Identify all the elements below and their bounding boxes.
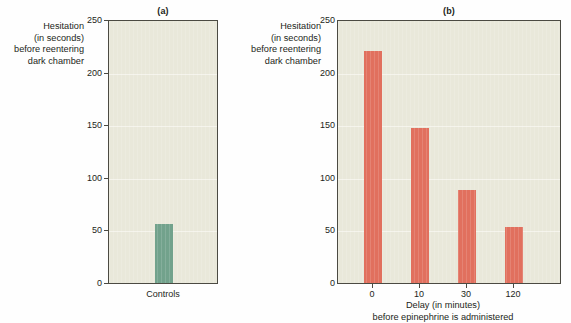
panel-b-xtick-120: [513, 284, 514, 288]
panel-b-xtick-label-120: 120: [493, 290, 533, 299]
panel-b-xtick-0: [372, 284, 373, 288]
panel-b: (b) Hesitation (in seconds) before reent…: [285, 0, 571, 321]
y-caption-line-2: (in seconds): [0, 33, 84, 45]
bar-delay-30: [458, 190, 476, 283]
x-caption-line-1: Delay (in minutes): [315, 300, 571, 312]
x-caption-line-2: before epinephrine is administered: [315, 312, 571, 323]
y-caption-line-2: (in seconds): [237, 33, 321, 45]
panel-b-xtick-30: [466, 284, 467, 288]
panel-b-ytick-label-0: 0: [311, 279, 335, 288]
panel-b-ytick-label-150: 150: [311, 121, 335, 130]
panel-b-y-axis-caption: Hesitation (in seconds) before reenterin…: [237, 21, 321, 67]
panel-a-ytick-label-150: 150: [78, 121, 102, 130]
bar-delay-120: [505, 227, 523, 283]
panel-b-xtick-label-10: 10: [399, 290, 439, 299]
panel-b-title: (b): [337, 6, 561, 16]
y-caption-line-4: dark chamber: [237, 56, 321, 68]
panel-a-gridline-100: [109, 179, 217, 180]
panel-a-gridline-150: [109, 126, 217, 127]
bar-delay-0: [364, 51, 382, 283]
panel-b-ytick-label-50: 50: [311, 226, 335, 235]
panel-b-x-axis-caption: Delay (in minutes) before epinephrine is…: [315, 300, 571, 323]
panel-a-title: (a): [108, 6, 218, 16]
panel-a-ytick-label-100: 100: [78, 174, 102, 183]
y-caption-line-1: Hesitation: [237, 21, 321, 33]
panel-b-xtick-label-0: 0: [352, 290, 392, 299]
panel-b-x-axis-extension: [337, 283, 561, 284]
panel-a-x-axis-extension: [108, 283, 218, 284]
panel-b-ytick-label-200: 200: [311, 69, 335, 78]
panel-a-xtick-label-controls: Controls: [123, 290, 203, 299]
panel-b-xtick-label-30: 30: [446, 290, 486, 299]
panel-a-ytick-label-200: 200: [78, 69, 102, 78]
panel-a-ytick-label-0: 0: [78, 279, 102, 288]
bar-controls: [155, 224, 173, 283]
panel-a-y-axis-caption: Hesitation (in seconds) before reenterin…: [0, 21, 84, 67]
panel-a-gridline-200: [109, 74, 217, 75]
bar-delay-10: [411, 128, 429, 283]
y-caption-line-3: before reentering: [237, 44, 321, 56]
panel-a-ytick-label-250: 250: [78, 16, 102, 25]
panel-a-plot-area: [108, 20, 218, 284]
panel-a-ytick-label-50: 50: [78, 226, 102, 235]
panel-b-ytick-label-250: 250: [311, 16, 335, 25]
y-caption-line-1: Hesitation: [0, 21, 84, 33]
panel-b-xtick-10: [419, 284, 420, 288]
y-caption-line-4: dark chamber: [0, 56, 84, 68]
y-caption-line-3: before reentering: [0, 44, 84, 56]
panel-b-ytick-label-100: 100: [311, 174, 335, 183]
panel-b-plot-area: [337, 20, 561, 284]
